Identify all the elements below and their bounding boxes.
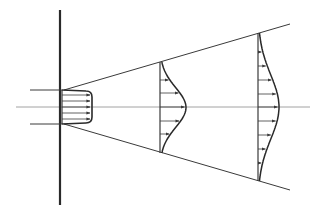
velocity-profile-1	[160, 62, 186, 153]
jet-diagram	[0, 0, 324, 216]
nozzle-exit-velocity-profile	[62, 90, 92, 124]
lower-spread-line	[64, 124, 290, 190]
velocity-profile-2	[258, 33, 279, 181]
gaussian-profile-curve	[162, 62, 186, 153]
upper-spread-line	[64, 24, 290, 90]
